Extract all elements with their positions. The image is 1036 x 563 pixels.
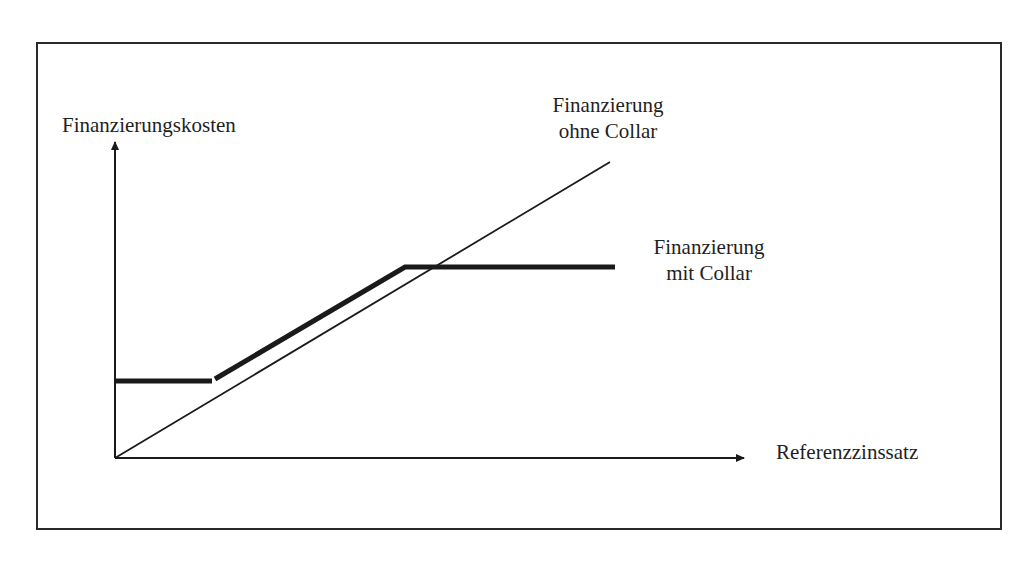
series-line-ohne-collar xyxy=(115,162,610,458)
y-axis-label: Finanzierungskosten xyxy=(62,112,236,138)
chart-canvas xyxy=(0,0,1036,563)
series-label-ohne-collar: Finanzierung ohne Collar xyxy=(528,92,688,144)
series-label-mit-collar: Finanzierung mit Collar xyxy=(636,234,782,286)
series-label-ohne-collar-line1: Finanzierung xyxy=(528,92,688,118)
series-label-mit-collar-line2: mit Collar xyxy=(636,260,782,286)
x-axis-label: Referenzzinssatz xyxy=(776,439,918,465)
series-label-mit-collar-line1: Finanzierung xyxy=(636,234,782,260)
series-label-ohne-collar-line2: ohne Collar xyxy=(528,118,688,144)
